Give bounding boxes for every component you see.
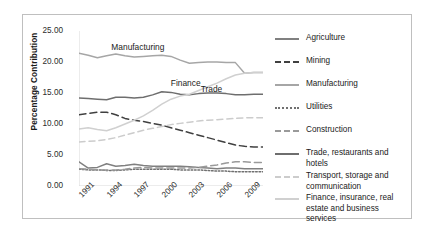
legend-item[interactable]: Finance, insurance, real estate and busi… [275,193,411,225]
legend-swatch-line-icon [275,34,299,44]
legend-item-label: Utilities [306,102,332,113]
y-axis-tick-label: 0.00 [29,181,63,190]
plot-area [79,31,263,186]
legend-item-label: Construction [306,125,352,136]
series-inline-label: Finance [171,78,201,88]
legend-item[interactable]: Trade, restaurants and hotels [275,148,411,169]
series-line [79,118,263,142]
legend-swatch-line-icon [275,57,299,67]
chart-frame: Percentage Contribution 0.005.0010.0015.… [22,14,412,219]
legend-item[interactable]: Manufacturing [275,79,358,90]
legend-item-label: Trade, restaurants and hotels [306,148,411,169]
axis-lines [79,31,263,186]
y-axis-tick-label: 10.00 [29,119,63,128]
series-line [79,53,263,73]
legend-item-label: Finance, insurance, real estate and busi… [306,193,411,225]
x-axis-ticks: 1991199419972000200320062009 [79,189,279,229]
legend-item-label: Transport, storage and communication [306,171,389,192]
legend-item[interactable]: Transport, storage and communication [275,171,389,192]
series-line [79,112,263,147]
legend-item[interactable]: Agriculture [275,33,345,44]
legend-swatch-line-icon [275,172,299,182]
legend-swatch-line-icon [275,126,299,136]
y-axis-ticks: 0.005.0010.0015.0020.0025.00 [27,15,63,220]
legend-item-label: Mining [306,56,330,67]
legend-swatch-line-icon [275,80,299,90]
y-axis-tick-label: 5.00 [29,150,63,159]
legend-swatch-line-icon [275,103,299,113]
legend: AgricultureMiningManufacturingUtilitiesC… [275,19,411,219]
series-inline-label: Manufacturing [111,42,164,52]
y-axis-tick-label: 15.00 [29,88,63,97]
y-axis-tick-label: 20.00 [29,57,63,66]
legend-item-label: Agriculture [306,33,345,44]
legend-item[interactable]: Mining [275,56,330,67]
series-inline-label: Trade [201,84,223,94]
legend-swatch-line-icon [275,149,299,159]
series-lines [79,31,263,186]
legend-swatch-line-icon [275,194,299,204]
legend-item[interactable]: Utilities [275,102,332,113]
y-axis-tick-label: 25.00 [29,26,63,35]
legend-item-label: Manufacturing [306,79,358,90]
legend-item[interactable]: Construction [275,125,352,136]
